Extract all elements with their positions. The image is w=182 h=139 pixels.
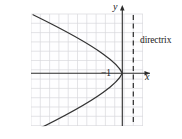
mask-right-bottom <box>143 81 182 139</box>
mask-right-top <box>143 0 182 66</box>
graph-canvas <box>0 0 182 139</box>
x-axis-arrowhead <box>145 71 151 76</box>
y-axis-arrowhead <box>120 5 125 11</box>
parabola-graph-figure: y x −1 directrix <box>0 0 182 139</box>
mask-left <box>0 0 31 139</box>
